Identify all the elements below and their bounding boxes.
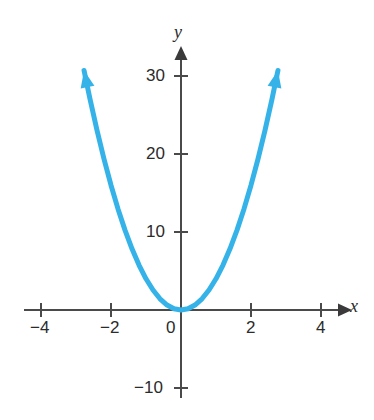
x-tick-label-4: 4 <box>316 318 325 338</box>
x-tick-label-2: 2 <box>246 318 255 338</box>
y-tick-label-30: 30 <box>146 66 165 86</box>
y-tick-label--10: −10 <box>134 378 163 398</box>
y-tick-label-20: 20 <box>146 144 165 164</box>
graph-figure: −4 −2 0 2 4 30 20 10 −10 x y <box>0 0 374 420</box>
coordinate-plane <box>0 0 374 420</box>
x-tick-label-0: 0 <box>166 318 175 338</box>
x-tick-label--2: −2 <box>100 318 119 338</box>
x-axis-label: x <box>350 296 358 317</box>
x-tick-label--4: −4 <box>30 318 49 338</box>
y-tick-label-10: 10 <box>146 222 165 242</box>
y-axis-arrow-icon <box>175 46 188 60</box>
y-axis-label: y <box>174 22 182 43</box>
